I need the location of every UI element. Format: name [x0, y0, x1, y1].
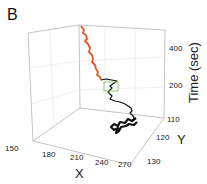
x-tick: 150 — [5, 144, 19, 153]
z-axis-label: Time (sec) — [186, 42, 201, 103]
x-tick: 180 — [42, 150, 56, 159]
y-tick: 130 — [147, 157, 161, 166]
panel-label: B — [7, 6, 18, 23]
x-tick: 210 — [70, 153, 84, 162]
chart-3d: B 400 200 110 Time — [0, 0, 207, 184]
y-tick: 120 — [156, 133, 170, 142]
z-tick: 400 — [169, 44, 183, 53]
y-axis-label: Y — [177, 132, 186, 147]
x-axis-label: X — [75, 166, 84, 181]
series-early-cluster — [111, 118, 137, 133]
series-late-trajectory — [81, 26, 101, 80]
series-early-trajectory — [101, 79, 136, 120]
figure-panel: B 400 200 110 Time — [0, 0, 207, 184]
x-tick: 270 — [118, 160, 132, 169]
z-bottom-label: 110 — [167, 115, 180, 124]
grid — [30, 26, 165, 128]
x-tick: 240 — [95, 158, 109, 167]
z-tick: 200 — [169, 81, 183, 90]
axes-box — [28, 25, 165, 165]
